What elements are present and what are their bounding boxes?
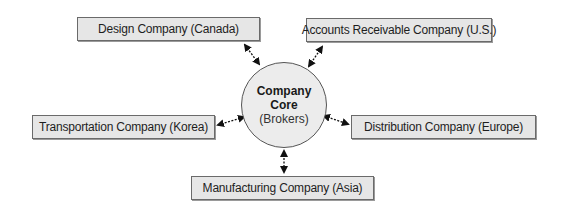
node-transportation: Transportation Company (Korea) (32, 115, 215, 139)
node-distribution: Distribution Company (Europe) (351, 115, 536, 139)
node-accounts: Accounts Receivable Company (U.S.) (306, 18, 492, 42)
arrow-transportation (218, 117, 244, 125)
arrow-design (245, 45, 259, 64)
node-label: Design Company (Canada) (98, 22, 239, 36)
node-manufacturing: Manufacturing Company (Asia) (191, 176, 374, 200)
node-label: Distribution Company (Europe) (364, 120, 523, 134)
arrow-distribution (324, 116, 348, 124)
core-subtitle: (Brokers) (259, 112, 308, 126)
node-label: Transportation Company (Korea) (39, 120, 208, 134)
node-label: Manufacturing Company (Asia) (203, 181, 363, 195)
node-design: Design Company (Canada) (77, 17, 260, 41)
core-title-line1: Company (257, 84, 312, 98)
company-core-circle: Company Core (Brokers) (241, 62, 327, 148)
node-label: Accounts Receivable Company (U.S.) (302, 23, 497, 37)
arrow-accounts (309, 47, 322, 66)
core-title-line2: Core (270, 98, 297, 112)
hub-and-spoke-diagram: Design Company (Canada) Accounts Receiva… (0, 0, 566, 211)
